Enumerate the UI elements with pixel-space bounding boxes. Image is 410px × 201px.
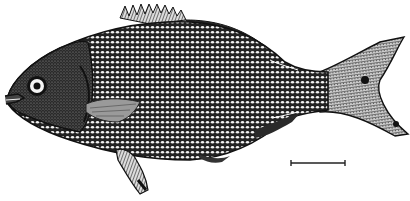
- fish-head: [5, 41, 93, 132]
- scale-bar: [291, 160, 345, 166]
- caudal-fin: [320, 37, 408, 136]
- fish-illustration-figure: [0, 0, 410, 201]
- fish-eye: [27, 76, 47, 96]
- fish-drawing: [0, 0, 410, 201]
